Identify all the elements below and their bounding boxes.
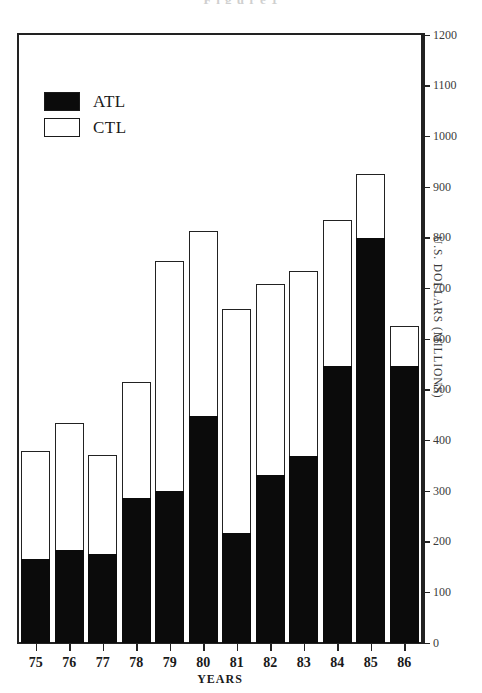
- y-axis-tick: [423, 541, 430, 543]
- bar-chart: F i g u r e 1 ATLCTL 0100200300400500600…: [0, 0, 482, 693]
- y-axis-tick: [423, 85, 430, 87]
- x-axis-tick-label: 83: [297, 655, 311, 671]
- bar-segment-atl: [88, 554, 117, 643]
- x-axis-tick-label: 82: [263, 655, 277, 671]
- bar-group: [289, 271, 318, 643]
- x-axis-title: YEARS: [17, 672, 423, 687]
- bar-segment-atl: [390, 366, 419, 643]
- legend-label: ATL: [93, 92, 126, 112]
- y-axis-tick: [423, 288, 430, 290]
- y-axis-tick: [423, 187, 430, 189]
- y-axis-tick-label: 100: [433, 586, 451, 598]
- x-axis-tick: [203, 644, 205, 651]
- y-axis-tick: [423, 592, 430, 594]
- bar-group: [256, 284, 285, 643]
- y-axis-tick: [423, 440, 430, 442]
- bar-group: [55, 423, 84, 643]
- legend-swatch-ctl: [44, 118, 80, 137]
- bar-group: [222, 309, 251, 643]
- x-axis-tick: [404, 644, 406, 651]
- y-axis-tick-label: 1000: [433, 130, 457, 142]
- y-axis-tick: [423, 237, 430, 239]
- y-axis-tick: [423, 491, 430, 493]
- x-axis-tick: [136, 644, 138, 651]
- y-axis-tick: [423, 643, 430, 645]
- x-axis-tick: [337, 644, 339, 651]
- x-axis: 757677787980818283848586: [17, 644, 423, 645]
- x-axis-tick: [270, 644, 272, 651]
- bar-group: [323, 220, 352, 643]
- x-axis-tick: [36, 644, 38, 651]
- clipped-title: F i g u r e 1: [0, 0, 482, 4]
- y-axis: 0100200300400500600700800900100011001200: [423, 33, 424, 644]
- y-axis-tick-label: 0: [433, 637, 439, 649]
- bar-segment-atl: [189, 416, 218, 643]
- x-axis-tick: [170, 644, 172, 651]
- x-axis-tick-label: 79: [163, 655, 177, 671]
- y-axis-tick: [423, 389, 430, 391]
- bar-segment-atl: [122, 498, 151, 643]
- y-axis-tick-label: 200: [433, 535, 451, 547]
- y-axis-tick-label: 900: [433, 181, 451, 193]
- y-axis-tick-label: 1200: [433, 29, 457, 41]
- bar-segment-atl: [21, 559, 50, 643]
- x-axis-tick: [69, 644, 71, 651]
- x-axis-tick: [103, 644, 105, 651]
- x-axis-tick-label: 86: [397, 655, 411, 671]
- bar-segment-atl: [323, 366, 352, 643]
- bar-segment-atl: [256, 475, 285, 643]
- bar-group: [21, 451, 50, 643]
- x-axis-tick-label: 77: [96, 655, 110, 671]
- legend-swatch-atl: [44, 92, 80, 111]
- x-axis-tick-label: 85: [364, 655, 378, 671]
- bar-group: [122, 382, 151, 643]
- x-axis-tick-label: 80: [196, 655, 210, 671]
- x-axis-tick-label: 78: [129, 655, 143, 671]
- bar-segment-atl: [222, 533, 251, 643]
- bar-segment-atl: [289, 456, 318, 643]
- bar-segment-atl: [55, 550, 84, 643]
- bar-group: [390, 326, 419, 643]
- y-axis-tick: [423, 339, 430, 341]
- legend-label: CTL: [93, 118, 127, 138]
- x-axis-tick: [237, 644, 239, 651]
- bar-group: [88, 455, 117, 643]
- y-axis-title: U.S. DOLLARS (MILLIONS): [432, 236, 444, 436]
- x-axis-tick-label: 84: [330, 655, 344, 671]
- chart-legend: ATLCTL: [44, 90, 174, 142]
- x-axis-tick: [304, 644, 306, 651]
- bar-group: [155, 261, 184, 643]
- bar-group: [356, 174, 385, 643]
- y-axis-tick: [423, 136, 430, 138]
- y-axis-tick-label: 300: [433, 485, 451, 497]
- bar-segment-atl: [356, 238, 385, 643]
- x-axis-tick-label: 76: [62, 655, 76, 671]
- y-axis-tick-label: 1100: [433, 79, 457, 91]
- legend-item: CTL: [44, 116, 174, 139]
- y-axis-tick: [423, 35, 430, 37]
- x-axis-tick-label: 81: [230, 655, 244, 671]
- bar-segment-atl: [155, 491, 184, 643]
- x-axis-tick: [371, 644, 373, 651]
- x-axis-tick-label: 75: [29, 655, 43, 671]
- legend-item: ATL: [44, 90, 174, 113]
- bar-group: [189, 231, 218, 643]
